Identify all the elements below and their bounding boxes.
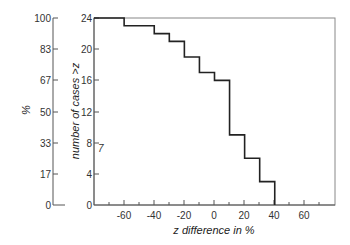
y-tick-20: 20	[81, 44, 93, 55]
pct-tick-33: 33	[40, 138, 52, 149]
y-tick-0: 0	[86, 200, 92, 211]
x-tick--20: -20	[177, 210, 192, 221]
pct-tick-0: 0	[45, 200, 51, 211]
step-line	[94, 18, 275, 205]
y-tick-4: 4	[86, 169, 92, 180]
percent-axis: 100 83 67 50 33 17 0 %	[20, 13, 65, 211]
pct-tick-67: 67	[40, 75, 52, 86]
x-axis-title: z difference in %	[172, 224, 255, 236]
pct-tick-50: 50	[40, 107, 52, 118]
y-tick-8: 8	[86, 138, 92, 149]
pct-tick-100: 100	[34, 13, 51, 24]
x-tick--40: -40	[147, 210, 162, 221]
x-tick-0: 0	[211, 210, 217, 221]
plot-frame	[94, 18, 335, 205]
x-tick-20: 20	[238, 210, 250, 221]
x-tick--60: -60	[117, 210, 132, 221]
step-chart: 100 83 67 50 33 17 0 % number of cases >…	[0, 0, 350, 245]
x-axis	[109, 200, 319, 205]
y-tick-16: 16	[81, 75, 93, 86]
x-tick-40: 40	[268, 210, 280, 221]
y-tick-12: 12	[81, 107, 93, 118]
y-tick-24: 24	[81, 13, 93, 24]
y-axis-title: number of cases >z	[69, 62, 81, 159]
x-tick-labels: -60 -40 -20 0 20 40 60	[117, 210, 310, 221]
percent-axis-title: %	[20, 105, 32, 115]
x-tick-60: 60	[298, 210, 310, 221]
y-axis: 24 20 16 12 8 4 0 7	[81, 13, 104, 211]
stray-mark: 7	[98, 143, 104, 154]
pct-tick-17: 17	[40, 169, 52, 180]
pct-tick-83: 83	[40, 44, 52, 55]
